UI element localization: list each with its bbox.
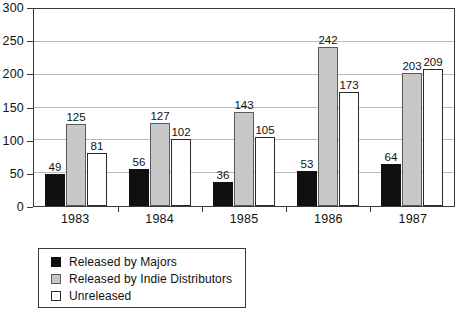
bar-value-label: 53 xyxy=(301,158,314,170)
bar: 81 xyxy=(87,153,107,206)
bar: 36 xyxy=(213,182,233,206)
bar-group-1985: 36143105 xyxy=(202,9,286,206)
bar-chart: 050100150200250300 491258156127102361431… xyxy=(0,0,462,316)
bar: 102 xyxy=(171,139,191,206)
bar-value-label: 64 xyxy=(385,151,398,163)
bar: 56 xyxy=(129,169,149,206)
bar: 125 xyxy=(66,124,86,206)
x-axis-label-1985: 1985 xyxy=(202,212,286,226)
bar-value-label: 127 xyxy=(150,110,169,122)
bar-group-1986: 53242173 xyxy=(286,9,370,206)
bar-value-label: 81 xyxy=(91,140,104,152)
bar-value-label: 49 xyxy=(49,161,62,173)
bar-group-1983: 4912581 xyxy=(34,9,118,206)
bar-value-label: 209 xyxy=(423,56,442,68)
legend-item: Released by Majors xyxy=(51,254,245,270)
bar: 203 xyxy=(402,73,422,206)
x-axis-label-1983: 1983 xyxy=(33,212,117,226)
plot-area: 491258156127102361431055324217364203209 xyxy=(33,8,455,207)
legend-label: Released by Majors xyxy=(69,256,177,269)
bar-value-label: 105 xyxy=(255,124,274,136)
legend-swatch-icon xyxy=(51,291,61,301)
x-axis: 19831984198519861987 xyxy=(33,212,455,226)
y-tick-label: 0 xyxy=(0,201,24,213)
bar-group-1987: 64203209 xyxy=(370,9,454,206)
bar: 209 xyxy=(423,69,443,206)
bar-value-label: 242 xyxy=(318,34,337,46)
bar: 173 xyxy=(339,92,359,206)
legend-swatch-icon xyxy=(51,274,61,284)
bar: 105 xyxy=(255,137,275,206)
x-axis-label-1986: 1986 xyxy=(286,212,370,226)
bar-groups: 491258156127102361431055324217364203209 xyxy=(34,9,454,206)
bar: 242 xyxy=(318,47,338,206)
y-tick-label: 100 xyxy=(0,135,24,147)
y-tick-label: 300 xyxy=(0,2,24,14)
x-axis-label-1987: 1987 xyxy=(371,212,455,226)
legend: Released by MajorsReleased by Indie Dist… xyxy=(38,248,246,308)
y-tick-label: 250 xyxy=(0,35,24,47)
bar-value-label: 102 xyxy=(171,126,190,138)
bar-group-1984: 56127102 xyxy=(118,9,202,206)
y-tick-label: 50 xyxy=(0,168,24,180)
bar: 64 xyxy=(381,164,401,206)
legend-label: Unreleased xyxy=(69,290,131,303)
bar: 49 xyxy=(45,174,65,206)
bar-value-label: 203 xyxy=(402,60,421,72)
bar-value-label: 125 xyxy=(66,111,85,123)
bar: 53 xyxy=(297,171,317,206)
bar: 143 xyxy=(234,112,254,206)
legend-item: Unreleased xyxy=(51,288,245,304)
y-tick-label: 150 xyxy=(0,102,24,114)
bar-value-label: 36 xyxy=(217,169,230,181)
legend-label: Released by Indie Distributors xyxy=(69,273,232,286)
bar-value-label: 173 xyxy=(339,79,358,91)
bar-value-label: 56 xyxy=(133,156,146,168)
bar-value-label: 143 xyxy=(234,99,253,111)
x-axis-label-1984: 1984 xyxy=(117,212,201,226)
legend-item: Released by Indie Distributors xyxy=(51,271,245,287)
y-tick-mark xyxy=(27,207,33,208)
y-tick-label: 200 xyxy=(0,68,24,80)
legend-swatch-icon xyxy=(51,257,61,267)
bar: 127 xyxy=(150,123,170,206)
